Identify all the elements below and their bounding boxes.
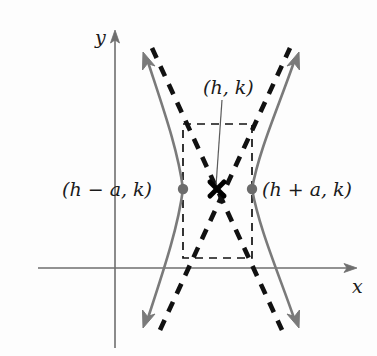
left-vertex-label: (h − a, k): [62, 180, 152, 199]
right-vertex-dot: [247, 184, 257, 194]
center-label: (h, k): [203, 78, 254, 97]
y-axis-label: y: [95, 28, 106, 47]
left-vertex-dot: [178, 184, 188, 194]
center-label-leader-line: [216, 100, 222, 186]
hyperbola-figure: (h − a, k) (h + a, k) (h, k) y x: [0, 0, 377, 356]
right-vertex-label: (h + a, k): [262, 180, 352, 199]
x-axis-label: x: [352, 277, 363, 296]
left-branch-curve: [148, 62, 183, 318]
